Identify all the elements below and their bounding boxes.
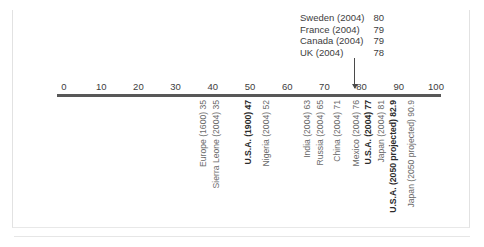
data-point-label: U.S.A. (2050 projected) 82.9 [388, 100, 398, 213]
life-expectancy-number-line-chart: Sweden (2004)80France (2004)79Canada (20… [0, 0, 484, 247]
axis-tick-50: 50 [245, 81, 256, 92]
data-point-label: Japan (2004) 81 [376, 100, 386, 163]
callout-row: Sweden (2004)80 [300, 12, 384, 24]
axis-tick-70: 70 [319, 81, 330, 92]
data-point-label: U.S.A. (1900) 47 [243, 100, 253, 164]
callout-row: Canada (2004)79 [300, 35, 384, 47]
data-point-label: China (2004) 71 [332, 100, 342, 162]
axis-tick-10: 10 [96, 81, 107, 92]
callout-row-name: Canada (2004) [300, 35, 362, 47]
callout-row-name: France (2004) [300, 24, 362, 36]
axis-tick-100: 100 [428, 81, 444, 92]
callout-row-name: Sweden (2004) [300, 12, 362, 24]
callout-row: France (2004)79 [300, 24, 384, 36]
callout-list: Sweden (2004)80France (2004)79Canada (20… [300, 12, 384, 58]
callout-row: UK (2004)78 [300, 47, 384, 59]
callout-row-value: 78 [362, 47, 384, 59]
data-point-label: Mexico (2004) 76 [351, 100, 361, 166]
callout-row-value: 79 [362, 24, 384, 36]
axis-tick-40: 40 [208, 81, 219, 92]
callout-row-value: 79 [362, 35, 384, 47]
data-point-label: Europe (1600) 35 [198, 100, 208, 167]
axis-tick-60: 60 [282, 81, 293, 92]
axis-tick-30: 30 [170, 81, 181, 92]
data-point-label: Nigeria (2004) 52 [261, 100, 271, 166]
axis-tick-20: 20 [133, 81, 144, 92]
figure-bottom-rule [14, 236, 470, 237]
axis-tick-80: 80 [356, 81, 367, 92]
figure-frame [12, 10, 470, 228]
data-point-label: Russia (2004) 65 [315, 100, 325, 165]
axis-tick-90: 90 [394, 81, 405, 92]
callout-row-value: 80 [362, 12, 384, 24]
data-point-label: U.S.A. (2004) 77 [363, 100, 373, 164]
callout-arrow-icon [354, 58, 355, 88]
callout-row-name: UK (2004) [300, 47, 362, 59]
data-point-label: Sierra Leone (2004) 35 [211, 100, 221, 188]
data-point-label: India (2004) 63 [302, 100, 312, 158]
data-point-label: Japan (2050 projected) 90.9 [406, 100, 416, 208]
axis-tick-0: 0 [61, 81, 66, 92]
axis-line [57, 94, 441, 97]
